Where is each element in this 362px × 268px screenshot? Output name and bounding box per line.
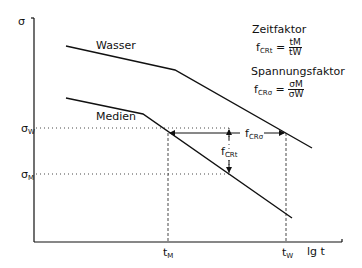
curve-label-wasser: Wasser	[96, 40, 136, 51]
diagram-canvas: σ σW σM tM tW lg t Wasser Medien fCRσ fC…	[0, 0, 362, 268]
x-tick-t-w: tW	[282, 247, 293, 260]
stress-factor-formula: fCRσ = σMσW	[254, 80, 304, 100]
time-factor-title: Zeitfaktor	[252, 24, 306, 35]
time-factor-formula: fCRt = tMtW	[256, 38, 302, 58]
y-tick-sigma-m: σM	[21, 169, 34, 182]
annotation-f-cr-sigma: fCRσ	[245, 128, 263, 141]
y-tick-sigma-w: σW	[21, 123, 35, 136]
x-tick-t-m: tM	[163, 247, 173, 260]
x-axis-label: lg t	[307, 246, 325, 257]
stress-factor-title: Spannungsfaktor	[251, 66, 345, 77]
curve-label-medien: Medien	[96, 111, 136, 122]
annotation-f-cr-t: fCRt	[221, 146, 237, 159]
diagram-graphics	[0, 0, 362, 268]
guide-lines	[36, 128, 229, 174]
y-axis-label: σ	[18, 16, 25, 27]
